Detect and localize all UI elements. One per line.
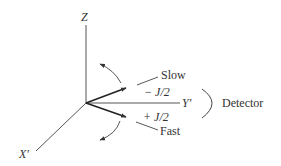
minus-j-half-label: − J/2: [144, 85, 170, 99]
slow-beam-arrow: [86, 88, 126, 103]
slow-leader-line: [137, 77, 158, 85]
rotation-arrow-up-icon: [100, 64, 121, 83]
fast-label: Fast: [160, 124, 181, 138]
plus-j-half-label: + J/2: [143, 110, 169, 124]
x-axis-label: X': [18, 147, 29, 161]
z-axis-label: Z: [81, 10, 88, 24]
slow-label: Slow: [161, 68, 186, 82]
x-axis: [36, 103, 86, 151]
detector-arc: [202, 89, 212, 118]
detector-label: Detector: [222, 96, 263, 110]
fast-beam-arrow: [86, 103, 126, 117]
diagram-canvas: Z X' Y' Slow Fast − J/2 + J/2 Detector: [0, 0, 281, 166]
y-axis-label: Y': [182, 96, 192, 110]
rotation-arrow-down-icon: [100, 121, 120, 140]
